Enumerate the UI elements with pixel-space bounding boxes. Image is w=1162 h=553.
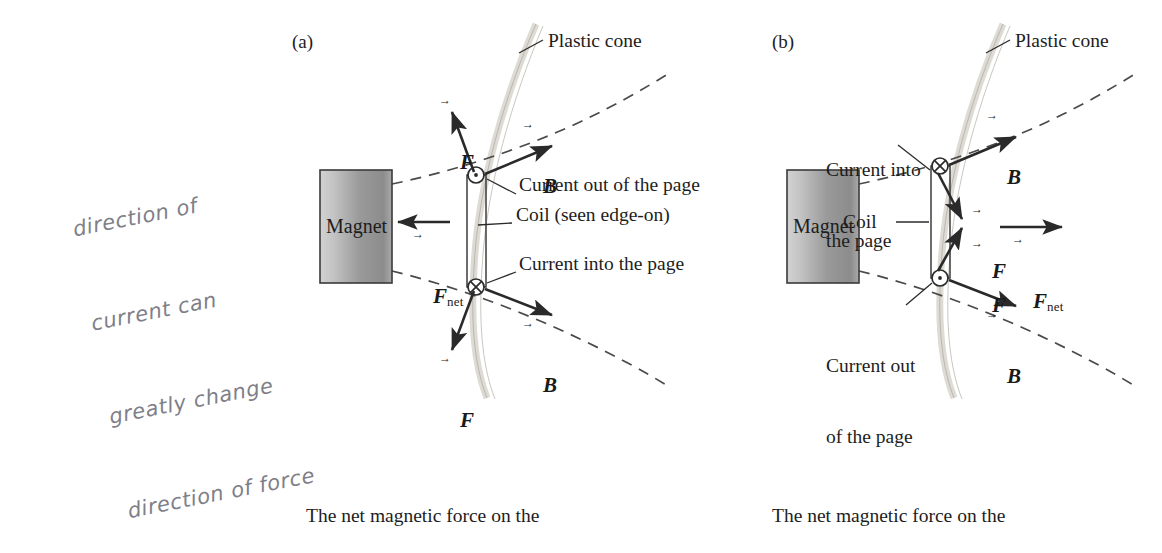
handwritten-line-2: current can: [88, 272, 281, 340]
field-label-top-a: → B: [522, 124, 557, 224]
vector-arrow-icon: →: [986, 307, 999, 315]
plastic-cone-label-b: Plastic cone: [1015, 29, 1109, 53]
panel-label-a: (a): [292, 30, 313, 53]
caption-b-line-1: The net magnetic force on the: [772, 503, 1005, 528]
caption-b: The net magnetic force on the coil pushe…: [772, 452, 1005, 553]
vector-arrow-icon: →: [971, 202, 984, 210]
net-force-label-a: → Fnet: [412, 234, 464, 335]
current-into-page-icon-b: [932, 158, 948, 174]
vector-arrow-icon: →: [1012, 232, 1025, 240]
net-force-subscript-a: net: [447, 294, 463, 309]
handwritten-line-4: direction of force: [125, 460, 318, 528]
vector-arrow-icon: →: [412, 227, 425, 235]
force-label-bottom-a: → F: [439, 358, 474, 458]
magnet-label-a: Magnet: [326, 214, 387, 238]
net-force-subscript-b: net: [1047, 299, 1063, 314]
panel-label-b: (b): [772, 30, 794, 53]
plastic-cone-label-a: Plastic cone: [548, 29, 642, 53]
vector-arrow-icon: →: [439, 93, 452, 101]
vector-arrow-icon: →: [522, 316, 535, 324]
field-label-top-b: → B: [986, 115, 1021, 215]
field-vector-bottom-a: [485, 289, 552, 315]
vector-arrow-icon: →: [522, 117, 535, 125]
handwritten-line-1: direction of: [70, 178, 263, 246]
caption-a-line-1: The net magnetic force on the: [306, 503, 539, 528]
handwritten-line-3: greatly change: [107, 366, 300, 434]
force-label-top-a: → F: [439, 100, 474, 200]
current-out-of-page-label-b-line-2: of the page: [826, 425, 915, 449]
current-into-page-icon-a: [468, 279, 484, 295]
leader-coil-a: [478, 223, 512, 225]
current-into-page-label-a: Current into the page: [519, 252, 684, 276]
current-into-page-label-b: Current into the page: [826, 110, 921, 300]
leader-current-into-a: [487, 272, 516, 283]
vector-arrow-icon: →: [971, 236, 984, 244]
current-into-page-label-b-line-1: Current into: [826, 158, 921, 182]
vector-arrow-icon: →: [439, 351, 452, 359]
vector-arrow-icon: →: [986, 108, 999, 116]
field-label-bottom-a: → B: [522, 323, 557, 423]
caption-a: The net magnetic force on the coil pulls…: [306, 452, 539, 553]
net-force-label-b: → Fnet: [1012, 239, 1064, 340]
coil-label-b: Coil: [843, 210, 877, 234]
current-out-of-page-label-b-line-1: Current out: [826, 354, 915, 378]
current-out-of-page-icon-b: [932, 270, 948, 286]
figure-root: direction of current can greatly change …: [0, 0, 1162, 553]
